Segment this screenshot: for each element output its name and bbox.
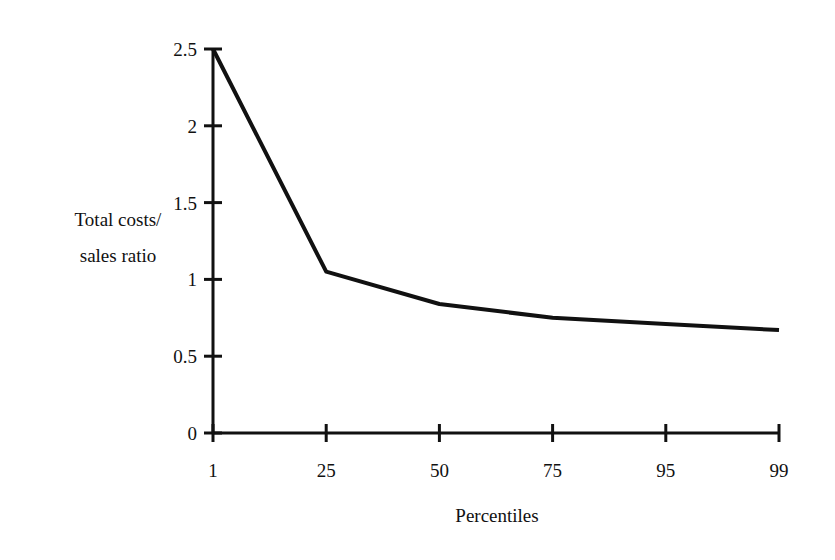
y-axis: 00.511.522.5: [173, 39, 222, 444]
x-tick-label: 50: [430, 460, 449, 481]
y-tick-label: 1.5: [173, 193, 197, 214]
y-tick-label: 0: [188, 423, 198, 444]
x-axis-title: Percentiles: [455, 505, 538, 526]
x-tick-label: 1: [208, 460, 218, 481]
x-tick-label: 95: [656, 460, 675, 481]
y-tick-label: 2: [188, 116, 198, 137]
y-tick-label: 1: [188, 269, 198, 290]
data-line: [213, 49, 779, 330]
y-tick-label: 0.5: [173, 346, 197, 367]
x-tick-label: 99: [770, 460, 789, 481]
x-axis: 12550759599: [208, 424, 788, 481]
line-chart: 00.511.522.5 12550759599 Total costs/ sa…: [0, 0, 835, 560]
y-axis-title-line-1: Total costs/: [75, 209, 163, 230]
x-tick-label: 75: [543, 460, 562, 481]
x-tick-label: 25: [317, 460, 336, 481]
y-tick-label: 2.5: [173, 39, 197, 60]
y-axis-title-line-2: sales ratio: [80, 245, 157, 266]
